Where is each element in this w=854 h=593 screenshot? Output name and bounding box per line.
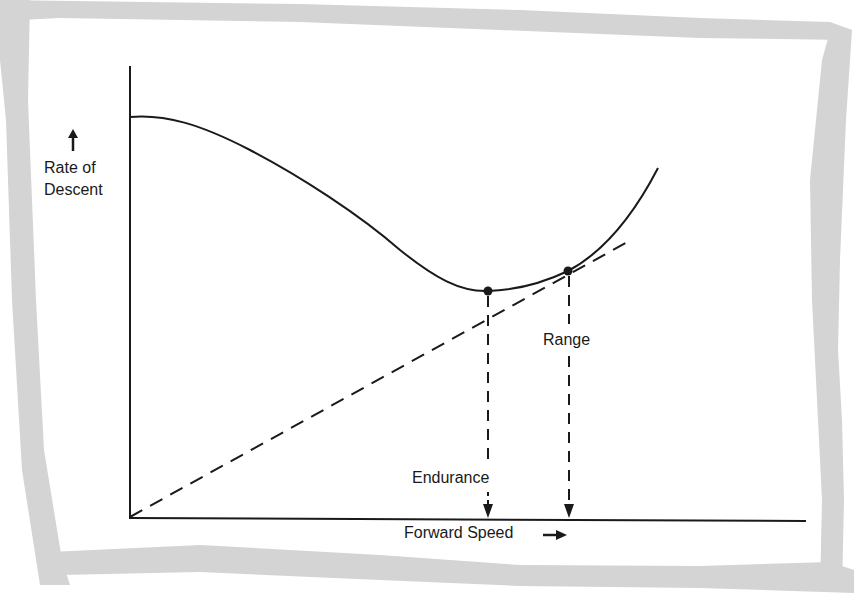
frame-border <box>0 0 854 593</box>
endurance-point <box>484 287 493 296</box>
endurance-arrowhead-icon <box>483 504 493 518</box>
y-axis-label-line2: Descent <box>44 179 103 201</box>
endurance-annotation: Endurance <box>412 467 489 489</box>
arrow-right-icon <box>543 530 567 540</box>
diagram-svg <box>0 0 854 593</box>
y-axis-label-line1: Rate of <box>44 157 103 179</box>
range-annotation: Range <box>543 329 590 351</box>
x-axis-label: Forward Speed <box>404 522 513 544</box>
x-axis <box>129 518 806 521</box>
range-arrowhead-icon <box>564 504 574 518</box>
diagram-canvas: Rate of Descent Forward Speed Range Endu… <box>0 0 854 593</box>
arrow-up-icon <box>68 129 78 151</box>
tangent-dashed-line <box>130 240 631 517</box>
range-point <box>564 267 573 276</box>
rate-of-descent-curve <box>130 116 658 291</box>
y-axis-label: Rate of Descent <box>44 157 103 201</box>
